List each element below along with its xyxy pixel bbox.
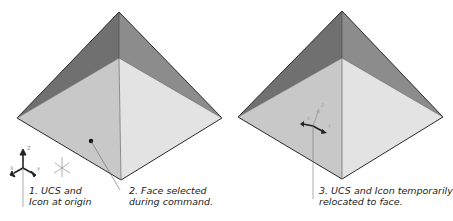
callout-1-line2: Icon at origin bbox=[29, 196, 92, 207]
callout-1: 1. UCS and Icon at origin bbox=[29, 185, 92, 207]
svg-text:Z: Z bbox=[27, 145, 31, 151]
callout-2: 2. Face selected during command. bbox=[129, 185, 213, 207]
callout-3-line2: relocated to face. bbox=[319, 196, 453, 207]
pyramid-left bbox=[17, 12, 222, 190]
svg-text:Z: Z bbox=[321, 103, 324, 108]
callout-2-line2: during command. bbox=[129, 196, 213, 207]
ucs-axes-icon: Z Y X bbox=[10, 145, 41, 177]
pyramid-right bbox=[238, 11, 443, 179]
svg-text:X: X bbox=[10, 165, 14, 171]
svg-text:Y: Y bbox=[327, 124, 331, 129]
callout-1-line1: 1. UCS and bbox=[29, 185, 92, 196]
world-axes-icon bbox=[54, 157, 70, 177]
callout-3-line1: 3. UCS and Icon temporarily bbox=[319, 185, 453, 196]
svg-text:X: X bbox=[307, 116, 310, 121]
callout-2-line1: 2. Face selected bbox=[129, 185, 213, 196]
callout-3: 3. UCS and Icon temporarily relocated to… bbox=[319, 185, 453, 207]
svg-text:Y: Y bbox=[36, 166, 41, 172]
